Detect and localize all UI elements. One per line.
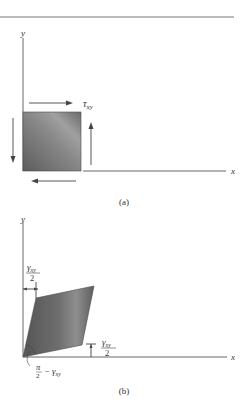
x-axis-label: x bbox=[230, 166, 235, 176]
right-angle-dimension bbox=[86, 344, 96, 357]
panel-b: y x γxy 2 γxy 2 bbox=[20, 214, 235, 396]
shear-stress-label: τxy bbox=[83, 98, 94, 111]
shear-strain-figure: y x τxy (a) y x bbox=[0, 0, 252, 419]
y-axis-label: y bbox=[20, 28, 25, 38]
panel-a: y x τxy (a) bbox=[11, 28, 236, 207]
shear-arrow-bottom bbox=[31, 179, 76, 184]
panel-a-caption: (a) bbox=[119, 197, 129, 207]
shear-arrow-left bbox=[11, 118, 16, 163]
svg-text:2: 2 bbox=[30, 273, 34, 283]
y-axis-label: y bbox=[20, 214, 25, 224]
svg-text:π: π bbox=[36, 362, 41, 372]
top-angle-label: γxy 2 bbox=[26, 262, 40, 283]
svg-text:γxy: γxy bbox=[52, 366, 61, 377]
top-angle-dimension bbox=[23, 282, 38, 298]
shear-arrow-right bbox=[89, 122, 94, 165]
corner-angle-label: π 2 − γxy bbox=[36, 362, 61, 380]
svg-text:γxy: γxy bbox=[102, 337, 111, 348]
svg-text:2: 2 bbox=[36, 372, 40, 380]
stress-element-square bbox=[23, 112, 81, 171]
x-axis-label: x bbox=[230, 352, 235, 362]
deformed-element-parallelogram bbox=[23, 286, 94, 357]
right-angle-label: γxy 2 bbox=[101, 337, 116, 358]
svg-text:2: 2 bbox=[105, 348, 109, 358]
svg-text:−: − bbox=[45, 366, 50, 376]
shear-arrow-top bbox=[29, 101, 73, 106]
panel-b-caption: (b) bbox=[119, 386, 130, 396]
svg-text:γxy: γxy bbox=[27, 262, 36, 273]
